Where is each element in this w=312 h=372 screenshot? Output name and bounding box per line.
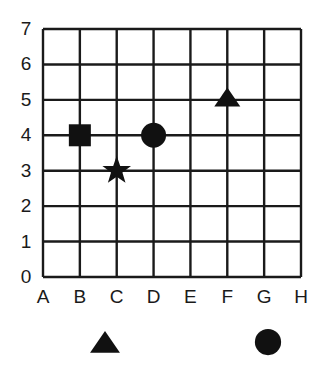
y-axis-label: 0 (21, 266, 32, 287)
grid-lines (43, 29, 301, 277)
circle-marker-circle-icon (141, 123, 166, 148)
y-axis-label: 1 (21, 231, 32, 252)
y-axis-label: 4 (21, 124, 32, 145)
answer-options (90, 329, 281, 355)
coordinate-grid-figure: ABCDEFGH 01234567 (0, 0, 312, 372)
square-marker-square-icon (69, 124, 91, 146)
y-axis-label: 5 (21, 89, 32, 110)
x-axis-label: E (184, 286, 197, 307)
x-axis-labels: ABCDEFGH (37, 286, 308, 307)
y-axis-label: 7 (21, 18, 32, 39)
triangle-marker-triangle-icon (214, 87, 240, 106)
y-axis-labels: 01234567 (21, 18, 32, 287)
option-circle-circle-icon (255, 329, 281, 355)
x-axis-label: C (110, 286, 124, 307)
x-axis-label: G (257, 286, 272, 307)
x-axis-label: H (294, 286, 308, 307)
y-axis-label: 6 (21, 53, 32, 74)
x-axis-label: A (37, 286, 50, 307)
x-axis-label: B (74, 286, 87, 307)
option-triangle-triangle-icon (90, 331, 120, 353)
x-axis-label: F (221, 286, 233, 307)
grid-svg: ABCDEFGH 01234567 (0, 0, 312, 372)
y-axis-label: 3 (21, 160, 32, 181)
y-axis-label: 2 (21, 195, 32, 216)
x-axis-label: D (147, 286, 161, 307)
